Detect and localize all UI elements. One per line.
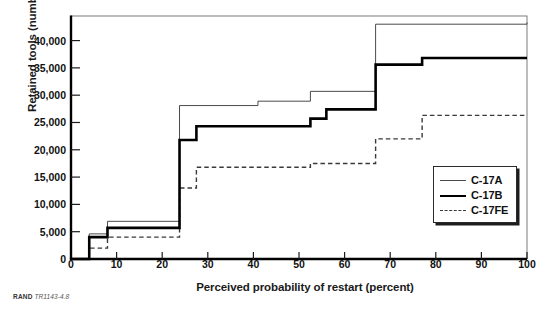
x-axis-title: Perceived probability of restart (percen… [70, 281, 540, 293]
legend-item-label: C-17FE [471, 204, 508, 216]
x-axis-tick-label: 100 [507, 258, 547, 270]
y-axis-title: Retained tools (number) [21, 0, 43, 162]
x-axis-tick-label: 20 [142, 258, 182, 270]
credit-code: TR1143-4.8 [34, 293, 69, 300]
x-axis-tick-label: 40 [233, 258, 273, 270]
legend-item-c-17fe: C-17FE [440, 202, 508, 217]
y-axis-tick-label: 5,000 [14, 226, 66, 238]
x-axis-tick-label: 50 [279, 258, 319, 270]
legend-item-c-17b: C-17B [440, 187, 508, 202]
legend-item-label: C-17A [471, 174, 502, 186]
x-axis-tick-label: 90 [461, 258, 501, 270]
figure-credit: RAND TR1143-4.8 [13, 293, 69, 300]
legend-item-label: C-17B [471, 189, 502, 201]
x-axis-tick-label: 10 [97, 258, 137, 270]
x-axis-tick-label: 30 [188, 258, 228, 270]
legend-item-c-17a: C-17A [440, 172, 508, 187]
x-axis-tick-label: 60 [325, 258, 365, 270]
figure-container: 05,00010,00015,00020,00025,00030,00035,0… [0, 0, 555, 317]
y-axis-tick-label: 10,000 [14, 198, 66, 210]
chart-legend: C-17AC-17BC-17FE [433, 166, 517, 223]
x-axis-tick-labels: 0102030405060708090100 [0, 258, 555, 274]
x-axis-tick-label: 80 [416, 258, 456, 270]
legend-line-swatch-icon [440, 174, 466, 186]
x-axis-tick-label: 0 [51, 258, 91, 270]
legend-line-swatch-icon [440, 189, 466, 201]
credit-organization: RAND [13, 293, 33, 300]
legend-line-swatch-icon [440, 204, 466, 216]
series-line-c-17b [71, 58, 527, 259]
y-axis-tick-label: 15,000 [14, 171, 66, 183]
x-axis-tick-label: 70 [370, 258, 410, 270]
